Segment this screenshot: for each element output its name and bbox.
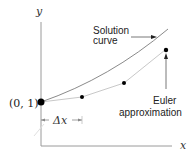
- x-axis-label: x: [180, 139, 187, 152]
- euler-point-2: [122, 81, 126, 85]
- euler-point-3: [164, 48, 168, 52]
- euler-polyline: [41, 50, 165, 102]
- euler-label-line2: approximation: [119, 107, 182, 118]
- initial-point-label: (0, 1): [9, 97, 39, 110]
- tangent-hint: [34, 124, 44, 136]
- euler-method-diagram: y x (0, 1) Δx Solution curve Euler appro…: [0, 0, 193, 156]
- euler-label-line1: Euler: [153, 95, 177, 106]
- solution-curve-label-line2: curve: [93, 35, 118, 46]
- delta-x-label: Δx: [52, 114, 68, 127]
- y-axis-label: y: [35, 5, 43, 18]
- euler-point-1: [80, 95, 84, 99]
- euler-arrowhead: [164, 53, 168, 59]
